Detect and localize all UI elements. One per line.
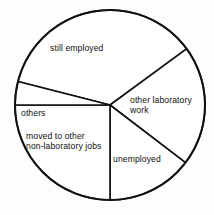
pie-slice-moved-to-other-non-laboratory-jobs[interactable] (15, 105, 110, 200)
pie-chart-svg (0, 0, 214, 215)
pie-chart: still employed other laboratorywork unem… (0, 0, 214, 215)
